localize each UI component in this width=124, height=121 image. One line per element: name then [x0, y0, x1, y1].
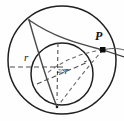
label-outer-radius: r	[24, 52, 28, 63]
bottom-point-marker	[56, 106, 59, 109]
chord-p-to-bottom	[58, 50, 103, 106]
figure-canvas	[0, 0, 124, 121]
label-inner-radius-symbol: r	[64, 65, 68, 76]
geometry-figure: P r 2/3r	[0, 0, 124, 121]
curve-apex-to-p	[29, 20, 103, 50]
tangent-ray-right	[103, 50, 124, 57]
tangent-ray-upper	[103, 49, 124, 51]
radius-tick	[84, 60, 90, 62]
label-point-p: P	[95, 30, 102, 42]
point-p-marker	[100, 47, 106, 53]
chord-p-to-center	[46, 50, 103, 74]
apex-point-marker	[28, 19, 30, 21]
label-inner-radius: 2/3r	[57, 66, 68, 76]
